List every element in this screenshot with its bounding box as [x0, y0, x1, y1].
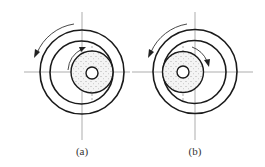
panel-b	[132, 12, 253, 140]
wheel-hub-a	[86, 67, 98, 79]
arrowhead-icon	[79, 47, 86, 52]
panel-a	[24, 12, 130, 140]
diagram-canvas	[0, 0, 265, 167]
grinding-diagram-figure: (a) (b)	[0, 0, 265, 167]
caption-b: (b)	[189, 145, 202, 157]
wheel-hub-b	[177, 66, 189, 78]
arrowhead-icon	[148, 49, 154, 58]
arrowhead-icon	[34, 49, 40, 58]
caption-a: (a)	[76, 145, 88, 157]
arrowhead-icon	[204, 59, 210, 67]
